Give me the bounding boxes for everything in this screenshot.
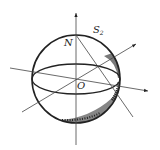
label-surface: S2 [93, 24, 104, 36]
label-north: N [63, 37, 74, 48]
sphere-diagram: N O S2 [0, 0, 160, 150]
label-center: O [77, 80, 85, 91]
label-surface-sub: 2 [99, 29, 104, 36]
